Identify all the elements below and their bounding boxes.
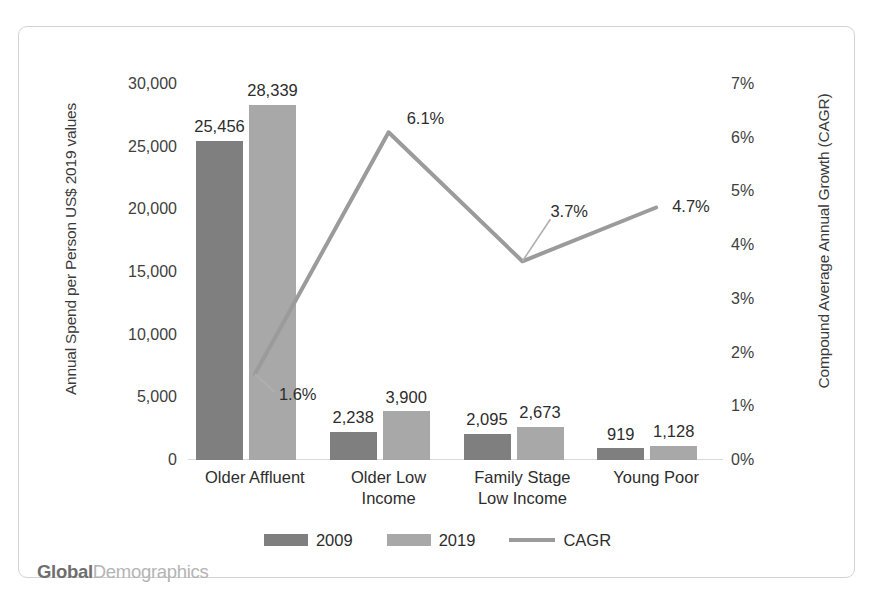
- y-tick-right-3pct: 3%: [731, 291, 754, 307]
- y-tick-right-1pct: 1%: [731, 398, 754, 414]
- watermark-bold-part: Global: [37, 561, 93, 582]
- legend-swatch-icon: [264, 534, 308, 546]
- y-tick-right-5pct: 5%: [731, 183, 754, 199]
- chart-screenshot: Annual Spend per Person US$ 2019 values …: [0, 0, 876, 601]
- watermark-globaldemographics: GlobalDemographics: [37, 561, 208, 583]
- x-category-label-2: Family StageLow Income: [456, 467, 590, 509]
- legend-swatch-icon: [387, 534, 431, 546]
- plot-area: 25,45628,3392,2383,9002,0952,6739191,128…: [188, 55, 723, 460]
- y-tick-left-25000: 25,000: [128, 139, 177, 155]
- y-tick-left-0: 0: [168, 452, 177, 468]
- legend-swatch-icon: [509, 538, 555, 542]
- legend-label: 2019: [439, 532, 476, 549]
- legend-label: CAGR: [563, 532, 611, 549]
- y-tick-left-5000: 5,000: [137, 389, 177, 405]
- x-category-label-0: Older Affluent: [188, 467, 322, 488]
- y-tick-left-15000: 15,000: [128, 264, 177, 280]
- cagr-line-layer: [188, 55, 723, 460]
- y-tick-right-7pct: 7%: [731, 76, 754, 92]
- x-axis-category-labels: Older AffluentOlder LowIncomeFamily Stag…: [188, 467, 723, 535]
- chart-legend: 20092019CAGR: [19, 532, 856, 549]
- y-axis-left-ticks: 05,00010,00015,00020,00025,00030,000: [74, 84, 177, 460]
- x-category-label-3: Young Poor: [589, 467, 723, 488]
- chart-frame: Annual Spend per Person US$ 2019 values …: [18, 26, 855, 578]
- legend-item-CAGR[interactable]: CAGR: [509, 532, 611, 549]
- cagr-polyline[interactable]: [255, 132, 656, 374]
- watermark-light-part: Demographics: [93, 561, 209, 582]
- cagr-value-label: 6.1%: [407, 110, 445, 127]
- y-axis-right-title: Compound Average Annual Growth (CAGR): [815, 71, 833, 411]
- x-category-label-line: Older Affluent: [188, 467, 322, 488]
- cagr-value-label: 4.7%: [672, 198, 710, 215]
- legend-label: 2009: [316, 532, 353, 549]
- legend-item-2019[interactable]: 2019: [387, 532, 476, 549]
- cagr-label-leader-line: [255, 374, 275, 392]
- y-tick-right-4pct: 4%: [731, 237, 754, 253]
- x-category-label-line: Income: [322, 488, 456, 509]
- x-category-label-line: Older Low: [322, 467, 456, 488]
- legend-item-2009[interactable]: 2009: [264, 532, 353, 549]
- x-category-label-1: Older LowIncome: [322, 467, 456, 509]
- y-tick-left-30000: 30,000: [128, 76, 177, 92]
- x-category-label-line: Young Poor: [589, 467, 723, 488]
- cagr-value-label: 3.7%: [550, 203, 588, 220]
- y-tick-right-6pct: 6%: [731, 130, 754, 146]
- x-category-label-line: Low Income: [456, 488, 590, 509]
- y-tick-right-2pct: 2%: [731, 345, 754, 361]
- y-axis-right-ticks: 0%1%2%3%4%5%6%7%: [731, 84, 791, 460]
- x-category-label-line: Family Stage: [456, 467, 590, 488]
- y-tick-right-0pct: 0%: [731, 452, 754, 468]
- y-tick-left-10000: 10,000: [128, 327, 177, 343]
- cagr-value-label: 1.6%: [279, 386, 317, 403]
- y-tick-left-20000: 20,000: [128, 201, 177, 217]
